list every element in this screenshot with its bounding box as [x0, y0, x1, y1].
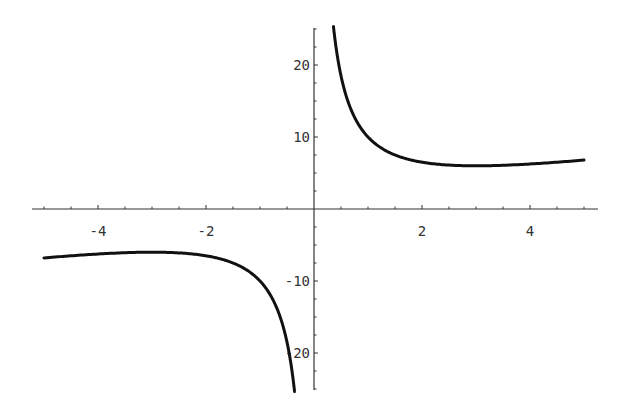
x-tick-labels: -4-224	[90, 223, 535, 239]
x-tick-label: 4	[526, 223, 534, 239]
x-tick-label: -2	[198, 223, 215, 239]
function-plot: -4-224 2010-10-20	[0, 0, 621, 415]
y-tick-label: 10	[293, 129, 310, 145]
x-tick-label: -4	[90, 223, 107, 239]
x-tick-label: 2	[418, 223, 426, 239]
y-tick-label: -10	[285, 273, 310, 289]
curve-right-branch	[333, 26, 584, 165]
curve-left-branch	[44, 252, 295, 391]
axes	[32, 28, 598, 390]
y-tick-label: 20	[293, 57, 310, 73]
